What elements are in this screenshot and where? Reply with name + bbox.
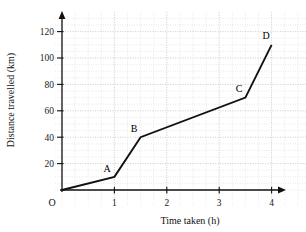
x-tick-label-4: 4 bbox=[269, 198, 274, 208]
y-axis-arrow-icon bbox=[59, 11, 66, 19]
point-label-d: D bbox=[262, 30, 269, 41]
point-label-a: A bbox=[103, 163, 111, 174]
chart-canvas: 20 40 60 80 100 120 1 2 3 4 O Time taken… bbox=[0, 0, 306, 232]
y-tick-label-20: 20 bbox=[45, 159, 55, 169]
x-tick-label-1: 1 bbox=[112, 198, 117, 208]
x-tick-label-3: 3 bbox=[217, 198, 222, 208]
x-axis-title: Time taken (h) bbox=[160, 215, 219, 227]
y-axis-tick-labels: 20 40 60 80 100 120 bbox=[40, 27, 55, 169]
x-tick-label-2: 2 bbox=[164, 198, 169, 208]
y-tick-label-40: 40 bbox=[45, 133, 55, 143]
x-axis bbox=[60, 187, 286, 194]
y-tick-label-100: 100 bbox=[40, 53, 55, 63]
distance-time-graph-figure: 20 40 60 80 100 120 1 2 3 4 O Time taken… bbox=[0, 0, 306, 232]
y-tick-label-120: 120 bbox=[40, 27, 55, 37]
point-label-b: B bbox=[131, 123, 138, 134]
y-tick-label-60: 60 bbox=[45, 106, 55, 116]
point-label-c: C bbox=[236, 83, 243, 94]
y-axis-title: Distance travelled (km) bbox=[5, 53, 17, 147]
origin-label: O bbox=[48, 197, 55, 208]
y-axis bbox=[59, 11, 66, 192]
y-tick-label-80: 80 bbox=[45, 80, 55, 90]
grid-minor-horizontal bbox=[55, 18, 306, 190]
